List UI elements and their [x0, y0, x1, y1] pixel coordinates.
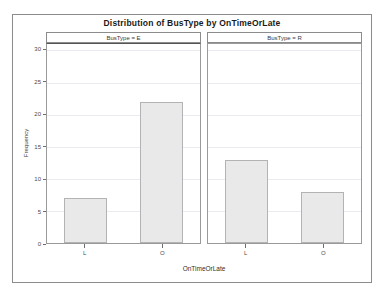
- x-axis-tick-label: L: [83, 250, 86, 256]
- x-axis-tick-mark: [245, 244, 246, 248]
- y-axis-tick-label: 15: [34, 144, 43, 150]
- panel-plot-area: [207, 43, 362, 244]
- panel-header: BusType = R: [207, 32, 362, 43]
- y-axis-tick-label: 10: [34, 176, 43, 182]
- chart-frame: Distribution of BusType by OnTimeOrLate …: [12, 14, 372, 283]
- x-axis-tick-mark: [162, 244, 163, 248]
- panel-row: BusType = EBusType = R: [46, 32, 362, 244]
- y-axis-tick-label: 30: [34, 46, 43, 52]
- y-axis-tick-label: 25: [34, 79, 43, 85]
- x-axis-tick-mark: [323, 244, 324, 248]
- bar: [301, 192, 344, 243]
- x-axis-panel: LO: [207, 244, 362, 264]
- x-axis-title: OnTimeOrLate: [46, 265, 362, 272]
- chart-panel: BusType = R: [207, 32, 362, 244]
- y-axis: Frequency 051015202530: [13, 43, 46, 244]
- bars-layer: [47, 44, 200, 243]
- y-axis-title: Frequency: [23, 108, 29, 178]
- panel-plot-area: [46, 43, 201, 244]
- x-axis: LOLO: [46, 244, 362, 264]
- chart-title: Distribution of BusType by OnTimeOrLate: [13, 18, 371, 28]
- bar: [64, 198, 107, 243]
- bar: [225, 160, 268, 243]
- bars-layer: [208, 44, 361, 243]
- y-axis-tick-label: 20: [34, 111, 43, 117]
- x-axis-tick-label: O: [321, 250, 326, 256]
- x-axis-tick-mark: [84, 244, 85, 248]
- panel-header: BusType = E: [46, 32, 201, 43]
- bar: [140, 102, 183, 243]
- x-axis-panel: LO: [46, 244, 201, 264]
- x-axis-tick-label: L: [244, 250, 247, 256]
- x-axis-tick-label: O: [160, 250, 165, 256]
- chart-panel: BusType = E: [46, 32, 201, 244]
